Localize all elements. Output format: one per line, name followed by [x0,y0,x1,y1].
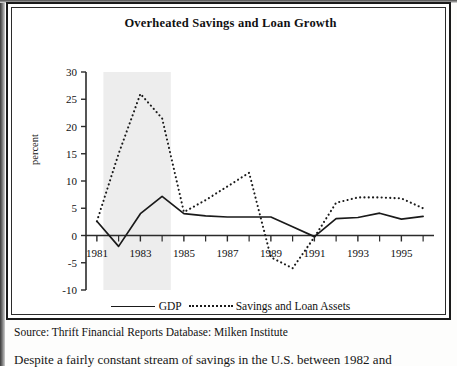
svg-text:-5: -5 [68,257,78,269]
legend-label-gdp: GDP [159,300,182,312]
legend-solid-line-icon [111,306,155,307]
svg-text:0: 0 [72,230,78,242]
svg-text:15: 15 [66,148,78,160]
legend-entry-savings-loan-assets: Savings and Loan Assets [182,300,351,312]
svg-text:1993: 1993 [347,247,370,259]
svg-text:10: 10 [66,175,78,187]
legend-entry-gdp: GDP [111,300,182,312]
svg-text:30: 30 [66,66,78,78]
body-paragraph-fragment: Despite a fairly constant stream of savi… [14,352,446,368]
page-left-edge-shadow [0,0,5,366]
svg-text:1995: 1995 [390,247,413,259]
chart-legend: GDP Savings and Loan Assets [8,300,453,312]
svg-text:1985: 1985 [173,247,196,259]
legend-dotted-line-icon [189,305,233,307]
source-note: Source: Thrift Financial Reports Databas… [14,326,288,338]
svg-text:25: 25 [66,93,78,105]
svg-text:1981: 1981 [86,247,108,259]
legend-label-savings-loan-assets: Savings and Loan Assets [236,300,351,312]
svg-text:20: 20 [66,121,78,133]
svg-text:-10: -10 [62,284,77,296]
chart-plot-area: percent -10-5051015202530198119831985198… [8,4,453,322]
svg-text:1987: 1987 [216,247,239,259]
svg-text:1983: 1983 [129,247,152,259]
chart-svg: -10-505101520253019811983198519871989199… [8,4,453,304]
svg-text:5: 5 [72,202,78,214]
figure-frame: Overheated Savings and Loan Growth perce… [6,2,451,320]
svg-text:1991: 1991 [303,247,325,259]
